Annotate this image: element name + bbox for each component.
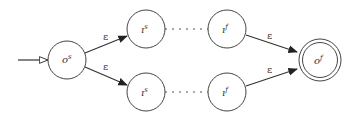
epsilon-label-3: ε	[267, 30, 272, 41]
state-final-accepting: of	[299, 39, 341, 81]
epsilon-label-2: ε	[103, 61, 108, 72]
state-lower-in-start: ıs	[127, 73, 165, 111]
nfa-diagram: os ε ε ıs ıf ıs ıf ε ε of	[0, 0, 356, 121]
state-upper-in-start: ıs	[127, 10, 165, 48]
state-lower-in-final: ıf	[208, 73, 246, 111]
epsilon-label-4: ε	[267, 64, 272, 75]
state-start: os	[48, 41, 86, 79]
state-upper-in-final: ıf	[208, 10, 246, 48]
epsilon-label-1: ε	[103, 31, 108, 42]
